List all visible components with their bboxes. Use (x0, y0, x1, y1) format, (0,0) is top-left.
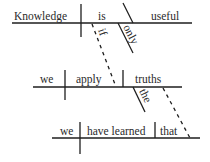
word-useful: useful (151, 10, 179, 22)
word-truths: truths (135, 73, 162, 85)
conditional-clause: we apply truths the (33, 70, 182, 112)
word-if: if (96, 27, 110, 38)
complement-divider (123, 3, 133, 23)
word-we-1: we (40, 73, 53, 85)
word-knowledge: Knowledge (14, 10, 67, 23)
sentence-diagram: Knowledge is useful only if we apply tru… (0, 0, 210, 162)
word-is: is (98, 10, 106, 22)
word-we-2: we (60, 125, 73, 137)
word-have-learned: have learned (87, 125, 146, 137)
word-apply: apply (76, 73, 102, 86)
word-that: that (160, 125, 178, 137)
relative-clause: we have learned that (52, 122, 200, 154)
